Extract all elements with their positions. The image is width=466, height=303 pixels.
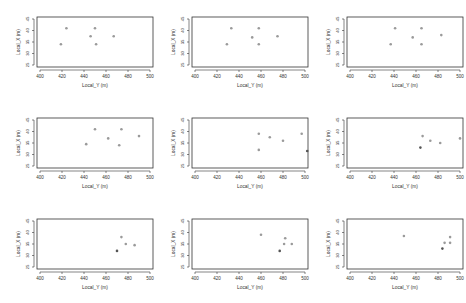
y-axis: 2530354045 [335, 218, 344, 269]
data-point [278, 250, 281, 253]
x-tick-label: 500 [301, 276, 309, 281]
x-tick-label: 400 [191, 74, 199, 79]
y-axis-title: Local_X (m) [326, 29, 331, 55]
y-tick-label: 45 [335, 218, 340, 223]
data-point [251, 36, 254, 39]
data-point [276, 35, 279, 38]
x-tick-label: 500 [456, 74, 464, 79]
data-point [258, 133, 261, 136]
data-point [300, 133, 303, 136]
scatter-panel-row1-col3: 400420440460480500Local_Y (m)2530354045L… [310, 0, 465, 101]
x-axis-title: Local_Y (m) [82, 83, 108, 88]
data-point [420, 43, 423, 46]
x-axis-title: Local_Y (m) [392, 285, 418, 290]
data-points [258, 133, 309, 153]
data-point [118, 144, 121, 147]
data-point [449, 236, 452, 239]
x-tick-label: 480 [279, 175, 287, 180]
x-tick-label: 460 [102, 276, 110, 281]
y-tick-label: 35 [25, 140, 30, 145]
x-axis-title: Local_Y (m) [237, 83, 263, 88]
y-axis: 2530354045 [180, 16, 189, 67]
data-point [306, 150, 309, 153]
x-tick-label: 420 [368, 175, 376, 180]
x-tick-label: 440 [235, 74, 243, 79]
data-point [226, 43, 229, 46]
x-axis: 400420440460480500 [191, 70, 309, 79]
x-tick-label: 420 [368, 276, 376, 281]
x-axis: 400420440460480500 [346, 171, 464, 180]
y-axis-title: Local_X (m) [171, 130, 176, 156]
y-tick-label: 25 [180, 163, 185, 168]
x-tick-label: 440 [235, 276, 243, 281]
y-axis: 2530354045 [180, 218, 189, 269]
y-tick-label: 35 [25, 241, 30, 246]
x-tick-label: 500 [146, 276, 154, 281]
scatter-panel-row3-col3: 400420440460480500Local_Y (m)2530354045L… [310, 202, 465, 303]
plot-frame [37, 219, 153, 269]
y-axis-title: Local_X (m) [16, 231, 21, 257]
data-points [60, 27, 115, 46]
x-axis-title: Local_Y (m) [392, 83, 418, 88]
x-tick-label: 440 [390, 276, 398, 281]
scatter-panel-row2-col2: 400420440460480500Local_Y (m)2530354045L… [155, 101, 310, 202]
data-point [411, 36, 414, 39]
y-tick-label: 25 [180, 62, 185, 67]
data-point [85, 143, 88, 146]
data-point [284, 237, 287, 240]
y-tick-label: 35 [25, 39, 30, 44]
data-point [112, 35, 115, 38]
scatter-panel-row1-col1: 400420440460480500Local_Y (m)2530354045L… [0, 0, 155, 101]
x-tick-label: 500 [146, 175, 154, 180]
y-tick-label: 30 [25, 152, 30, 157]
x-tick-label: 420 [58, 276, 66, 281]
x-tick-label: 460 [257, 276, 265, 281]
data-point [230, 27, 233, 30]
data-point [420, 27, 423, 30]
data-point [120, 236, 123, 239]
y-tick-label: 40 [25, 129, 30, 134]
x-axis-title: Local_Y (m) [82, 184, 108, 189]
x-tick-label: 400 [36, 276, 44, 281]
y-tick-label: 40 [335, 230, 340, 235]
x-tick-label: 480 [279, 74, 287, 79]
x-tick-label: 400 [346, 175, 354, 180]
y-tick-label: 25 [25, 264, 30, 269]
data-point [89, 35, 92, 38]
data-point [94, 27, 97, 30]
data-point [394, 27, 397, 30]
y-tick-label: 45 [25, 16, 30, 21]
x-tick-label: 480 [434, 276, 442, 281]
x-tick-label: 460 [412, 276, 420, 281]
x-tick-label: 420 [213, 74, 221, 79]
scatter-panel-row3-col2: 400420440460480500Local_Y (m)2530354045L… [155, 202, 310, 303]
data-points [116, 236, 136, 252]
data-point [441, 247, 444, 250]
x-tick-label: 460 [102, 175, 110, 180]
y-tick-label: 30 [180, 152, 185, 157]
y-tick-label: 25 [25, 163, 30, 168]
x-tick-label: 400 [36, 74, 44, 79]
y-tick-label: 30 [335, 152, 340, 157]
x-tick-label: 480 [434, 175, 442, 180]
x-axis: 400420440460480500 [346, 272, 464, 281]
data-point [133, 244, 136, 247]
data-point [60, 43, 63, 46]
y-tick-label: 30 [335, 51, 340, 56]
x-tick-label: 400 [191, 276, 199, 281]
y-axis-title: Local_X (m) [16, 29, 21, 55]
y-tick-label: 30 [180, 253, 185, 258]
x-tick-label: 460 [412, 74, 420, 79]
y-tick-label: 25 [335, 62, 340, 67]
y-axis-title: Local_X (m) [171, 231, 176, 257]
x-tick-label: 440 [390, 74, 398, 79]
y-tick-label: 45 [25, 117, 30, 122]
y-axis-title: Local_X (m) [326, 130, 331, 156]
x-axis: 400420440460480500 [191, 171, 309, 180]
y-axis-title: Local_X (m) [326, 231, 331, 257]
x-tick-label: 400 [36, 175, 44, 180]
x-axis-title: Local_Y (m) [237, 285, 263, 290]
data-point [120, 128, 123, 131]
data-point [260, 234, 263, 237]
x-tick-label: 500 [301, 74, 309, 79]
